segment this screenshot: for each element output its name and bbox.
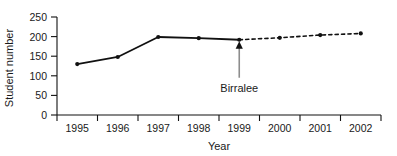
y-tick-label-150: 150 — [29, 50, 47, 62]
x-tick-label-1998: 1998 — [187, 122, 211, 134]
y-tick-label-50: 50 — [35, 89, 47, 101]
data-point-1995 — [75, 62, 79, 66]
data-point-1999 — [237, 38, 241, 42]
data-point-2000 — [278, 36, 282, 40]
y-axis-title: Student number — [3, 29, 15, 108]
x-tick-label-1996: 1996 — [106, 122, 130, 134]
data-point-1996 — [116, 55, 120, 59]
x-tick-label-2001: 2001 — [309, 122, 333, 134]
y-tick-label-100: 100 — [29, 70, 47, 82]
x-axis-title: Year — [208, 140, 231, 152]
data-point-2001 — [318, 33, 322, 37]
chart-container: Student number 250 200 150 100 50 0 — [0, 0, 397, 156]
x-tick-label-2000: 2000 — [268, 122, 292, 134]
x-tick-label-2002: 2002 — [349, 122, 373, 134]
x-tick-label-1997: 1997 — [147, 122, 171, 134]
data-point-2002 — [359, 31, 363, 35]
student-number-line-chart: Student number 250 200 150 100 50 0 — [0, 0, 397, 156]
x-tick-label-1999: 1999 — [228, 122, 252, 134]
birralee-annotation-label: Birralee — [220, 82, 258, 94]
x-tick-label-1995: 1995 — [66, 122, 90, 134]
data-point-1997 — [156, 35, 160, 39]
y-tick-label-250: 250 — [29, 11, 47, 23]
y-tick-label-200: 200 — [29, 31, 47, 43]
data-point-1998 — [197, 36, 201, 40]
y-tick-label-0: 0 — [41, 109, 47, 121]
